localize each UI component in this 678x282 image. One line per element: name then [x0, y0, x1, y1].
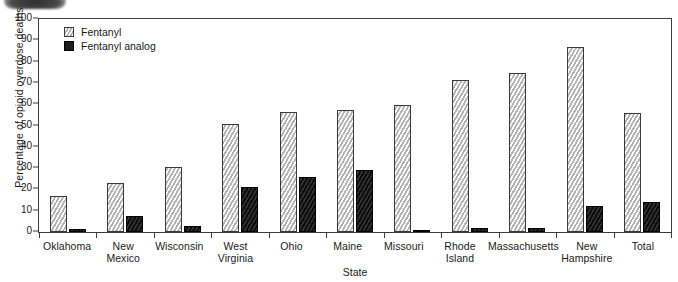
x-tick-mark — [39, 233, 40, 238]
bar-group — [154, 19, 211, 232]
bar — [299, 177, 316, 232]
y-tick-label: 10 — [0, 205, 32, 215]
chart-figure: Percentage of opioid overdose deaths 100… — [0, 0, 678, 282]
x-tick-label: Ohio — [264, 240, 320, 264]
x-tick-mark — [614, 233, 615, 238]
bar-group — [384, 19, 441, 232]
x-tick-mark — [556, 233, 557, 238]
y-tick-label: 100 — [0, 13, 32, 23]
x-tick-mark — [154, 233, 155, 238]
x-tick-label: Massachusetts — [488, 240, 559, 264]
y-tick-label: 30 — [0, 162, 32, 172]
bar — [586, 206, 603, 232]
bar — [413, 230, 430, 232]
bar — [69, 229, 86, 232]
dark-swatch — [64, 41, 74, 51]
bar — [107, 183, 124, 232]
x-tick-label: West Virginia — [207, 240, 263, 264]
bar-group — [211, 19, 268, 232]
y-tick-label: 50 — [0, 120, 32, 130]
bar-group — [441, 19, 498, 232]
x-tick-mark — [96, 233, 97, 238]
light-hatched-swatch — [64, 27, 74, 37]
x-tick-label: Total — [615, 240, 671, 264]
bar — [337, 110, 354, 232]
bar — [567, 47, 584, 232]
x-tick-label: Maine — [320, 240, 376, 264]
bar — [624, 113, 641, 232]
bar — [184, 226, 201, 232]
x-tick-label: Oklahoma — [39, 240, 95, 264]
bar — [241, 187, 258, 232]
bar — [280, 112, 297, 232]
bar — [50, 196, 67, 232]
x-tick-label: New Hampshire — [559, 240, 615, 264]
x-tick-label: Wisconsin — [151, 240, 207, 264]
bar — [126, 216, 143, 232]
bar — [452, 80, 469, 232]
bar — [222, 124, 239, 232]
bar — [394, 105, 411, 232]
bar — [528, 228, 545, 232]
x-tick-label: Missouri — [376, 240, 432, 264]
y-tick-label: 80 — [0, 56, 32, 66]
legend-item: Fentanyl analog — [64, 39, 156, 53]
bar-group — [269, 19, 326, 232]
bar-group — [326, 19, 383, 232]
x-tick-mark — [441, 233, 442, 238]
x-tick-mark — [384, 233, 385, 238]
x-tick-mark — [326, 233, 327, 238]
y-tick-label: 60 — [0, 98, 32, 108]
x-tick-mark — [211, 233, 212, 238]
y-tick-label: 0 — [0, 226, 32, 236]
bar — [509, 73, 526, 232]
x-tick-mark — [269, 233, 270, 238]
bar — [165, 167, 182, 232]
x-axis-ticks — [39, 233, 671, 239]
x-tick-label: Rhode Island — [432, 240, 488, 264]
x-tick-mark — [671, 233, 672, 238]
legend-label: Fentanyl analog — [81, 41, 156, 52]
y-tick-label: 70 — [0, 77, 32, 87]
y-tick-label: 90 — [0, 34, 32, 44]
bar — [643, 202, 660, 232]
chart-legend: FentanylFentanyl analog — [64, 25, 156, 53]
x-axis-title: State — [39, 266, 671, 278]
y-axis-ticks: 1009080706050403020100 — [0, 18, 38, 233]
bar-group — [499, 19, 556, 232]
bar — [356, 170, 373, 232]
bar-group — [614, 19, 671, 232]
y-tick-label: 20 — [0, 183, 32, 193]
x-axis-labels: OklahomaNew MexicoWisconsinWest Virginia… — [39, 240, 671, 264]
bar-group — [556, 19, 613, 232]
legend-item: Fentanyl — [64, 25, 156, 39]
y-tick-label: 40 — [0, 141, 32, 151]
x-tick-label: New Mexico — [95, 240, 151, 264]
legend-label: Fentanyl — [81, 27, 121, 38]
x-tick-mark — [499, 233, 500, 238]
bar — [471, 228, 488, 232]
